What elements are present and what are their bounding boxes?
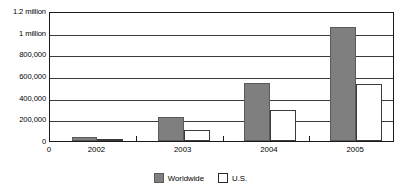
y-axis-tick-label: 1.2 million	[13, 8, 46, 16]
legend-label-us: U.S.	[232, 174, 247, 183]
x-axis-tick	[309, 136, 310, 141]
bar-chart: 1.2 million1 million800,000600,000400,00…	[0, 0, 401, 195]
bar-2003-us	[184, 130, 210, 141]
bar-2003-worldwide	[158, 117, 184, 141]
legend-item-worldwide: Worldwide	[154, 173, 204, 183]
bar-2004-worldwide	[244, 83, 270, 141]
plot-area	[49, 12, 394, 142]
legend-swatch-worldwide	[154, 173, 164, 183]
x-axis-tick-label: 0	[29, 145, 69, 155]
x-axis-tick	[223, 136, 224, 141]
y-axis-labels: 1.2 million1 million800,000600,000400,00…	[0, 0, 46, 150]
bar-2002-us	[97, 139, 123, 141]
x-axis-tick	[136, 136, 137, 141]
legend-item-us: U.S.	[218, 173, 247, 183]
x-axis-labels: 02002200320042005	[0, 145, 401, 159]
legend-label-worldwide: Worldwide	[168, 174, 204, 183]
x-axis-tick-label: 2005	[335, 145, 375, 155]
chart-legend: Worldwide U.S.	[0, 170, 401, 186]
bar-2005-us	[356, 84, 382, 141]
y-axis-tick-label: 600,000	[19, 73, 46, 81]
bar-2004-us	[270, 110, 296, 141]
x-axis-tick-label: 2004	[249, 145, 289, 155]
y-axis-tick-label: 200,000	[19, 116, 46, 124]
y-axis-tick-label: 800,000	[19, 51, 46, 59]
x-axis-tick-label: 2002	[76, 145, 116, 155]
legend-swatch-us	[218, 173, 228, 183]
y-axis-tick-label: 400,000	[19, 95, 46, 103]
bars-layer	[50, 13, 393, 141]
x-axis-tick-label: 2003	[163, 145, 203, 155]
bar-2005-worldwide	[330, 27, 356, 141]
bar-2002-worldwide	[72, 137, 98, 141]
y-axis-tick-label: 1 million	[19, 30, 46, 38]
